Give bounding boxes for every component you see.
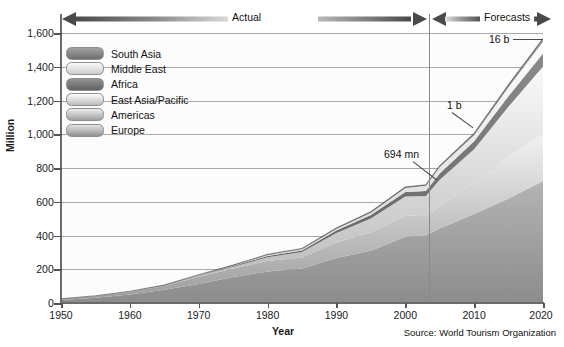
xtick-mark-2020: [543, 303, 545, 308]
ytick-mark-1400: [54, 67, 62, 69]
ytick-label-800: 800: [10, 162, 54, 174]
xtick-mark-1990: [336, 303, 338, 308]
xtick-label-1960: 1960: [110, 309, 150, 321]
legend-label-middle-east: Middle East: [111, 63, 166, 75]
annotation-16b: 16 b: [489, 33, 509, 45]
y-axis-labels: 1,600 1,400 1,200 1,000 800 600 400 200 …: [4, 0, 54, 347]
ytick-mark-1600: [54, 33, 62, 35]
ytick-mark-200: [54, 269, 62, 271]
ytick-mark-800: [54, 168, 62, 170]
annotation-694mn: 694 mn: [384, 148, 419, 160]
legend-item-south-asia[interactable]: South Asia: [66, 46, 181, 61]
ytick-mark-1000: [54, 134, 62, 136]
xtick-mark-1960: [130, 303, 132, 308]
forecasts-period-label: Forecasts: [480, 11, 534, 23]
legend-label-americas: Americas: [111, 109, 155, 121]
legend: South Asia Middle East Africa East Asia/…: [66, 46, 181, 138]
ytick-label-400: 400: [10, 230, 54, 242]
x-axis-line: [60, 302, 544, 304]
legend-label-europe: Europe: [111, 124, 145, 136]
ytick-label-1200: 1,200: [10, 95, 54, 107]
xtick-mark-1980: [268, 303, 270, 308]
legend-swatch-africa: [66, 78, 104, 91]
legend-item-east-asia-pacific[interactable]: East Asia/Pacific: [66, 92, 181, 107]
legend-item-middle-east[interactable]: Middle East: [66, 61, 181, 76]
forecast-divider-2003: [429, 14, 430, 303]
xtick-label-1970: 1970: [179, 309, 219, 321]
legend-label-south-asia: South Asia: [111, 48, 161, 60]
legend-label-africa: Africa: [111, 78, 138, 90]
annotation-1b: 1 b: [447, 99, 462, 111]
legend-label-east-asia-pacific: East Asia/Pacific: [111, 94, 189, 106]
xtick-label-2000: 2000: [385, 309, 425, 321]
tourism-stacked-area-chart: Actual Forecasts: [0, 0, 564, 347]
ytick-mark-1200: [54, 101, 62, 103]
ytick-label-600: 600: [10, 196, 54, 208]
ytick-label-0: 0: [10, 297, 54, 309]
xtick-label-2010: 2010: [454, 309, 494, 321]
legend-swatch-south-asia: [66, 47, 104, 60]
legend-swatch-middle-east: [66, 62, 104, 75]
legend-swatch-europe: [66, 124, 104, 137]
annotation-16b-leader: [513, 39, 543, 40]
xtick-mark-1970: [199, 303, 201, 308]
xtick-label-1950: 1950: [41, 309, 81, 321]
y-axis-line: [60, 14, 62, 303]
ytick-label-1600: 1,600: [10, 27, 54, 39]
legend-item-europe[interactable]: Europe: [66, 122, 181, 137]
legend-item-africa[interactable]: Africa: [66, 77, 181, 92]
legend-item-americas[interactable]: Americas: [66, 107, 181, 122]
ytick-label-200: 200: [10, 263, 54, 275]
xtick-label-2020: 2020: [521, 309, 561, 321]
x-axis-title: Year: [272, 325, 294, 337]
xtick-mark-2010: [474, 303, 476, 308]
xtick-label-1990: 1990: [316, 309, 356, 321]
legend-swatch-americas: [66, 108, 104, 121]
xtick-label-1980: 1980: [248, 309, 288, 321]
ytick-mark-400: [54, 236, 62, 238]
period-arrows: Actual Forecasts: [0, 8, 564, 30]
y-axis-title: Million: [4, 119, 16, 152]
ytick-label-1000: 1,000: [10, 128, 54, 140]
legend-swatch-east-asia-pacific: [66, 93, 104, 106]
ytick-mark-600: [54, 202, 62, 204]
source-note: Source: World Tourism Organization: [404, 327, 556, 338]
actual-period-label: Actual: [228, 11, 265, 23]
ytick-label-1400: 1,400: [10, 61, 54, 73]
xtick-mark-2000: [405, 303, 407, 308]
xtick-mark-1950: [61, 303, 63, 308]
